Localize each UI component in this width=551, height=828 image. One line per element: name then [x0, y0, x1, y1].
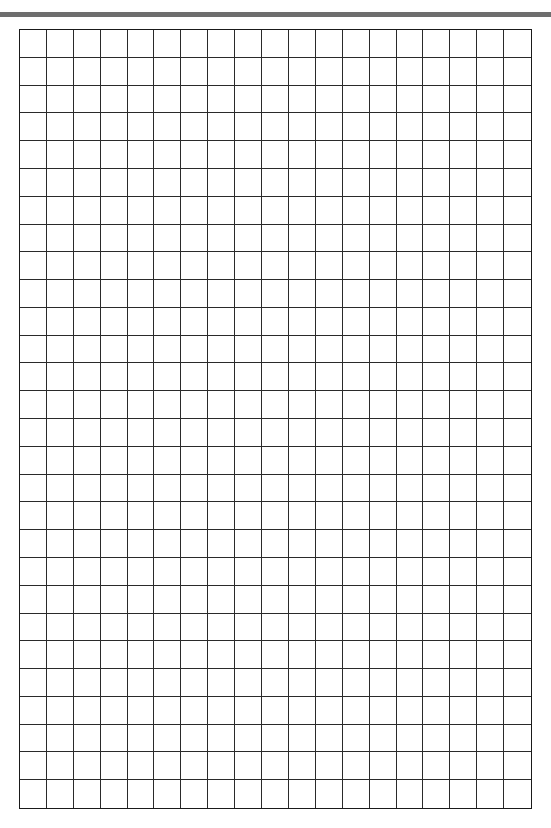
grid-cell	[504, 30, 531, 58]
grid-cell	[423, 725, 450, 753]
grid-cell	[235, 586, 262, 614]
grid-cell	[397, 697, 424, 725]
grid-cell	[235, 419, 262, 447]
grid-cell	[477, 280, 504, 308]
grid-cell	[423, 113, 450, 141]
grid-cell	[370, 363, 397, 391]
grid-cell	[128, 586, 155, 614]
grid-cell	[370, 502, 397, 530]
grid-cell	[262, 447, 289, 475]
grid-cell	[181, 447, 208, 475]
grid-cell	[289, 752, 316, 780]
grid-cell	[343, 558, 370, 586]
grid-cell	[450, 225, 477, 253]
grid-cell	[74, 725, 101, 753]
grid-cell	[397, 586, 424, 614]
grid-cell	[181, 86, 208, 114]
grid-cell	[316, 391, 343, 419]
grid-cell	[154, 86, 181, 114]
grid-cell	[477, 58, 504, 86]
grid-cell	[235, 780, 262, 808]
grid-cell	[316, 419, 343, 447]
grid-cell	[450, 697, 477, 725]
grid-cell	[74, 669, 101, 697]
grid-cell	[101, 86, 128, 114]
grid-cell	[289, 447, 316, 475]
grid-cell	[101, 169, 128, 197]
grid-cell	[128, 391, 155, 419]
grid-cell	[423, 447, 450, 475]
grid-cell	[20, 530, 47, 558]
grid-cell	[289, 141, 316, 169]
grid-cell	[289, 780, 316, 808]
grid-cell	[262, 530, 289, 558]
grid-cell	[423, 586, 450, 614]
grid-cell	[504, 225, 531, 253]
grid-cell	[477, 502, 504, 530]
grid-cell	[181, 614, 208, 642]
grid-cell	[262, 363, 289, 391]
grid-cell	[262, 280, 289, 308]
grid-cell	[370, 752, 397, 780]
grid-cell	[101, 141, 128, 169]
grid-cell	[289, 558, 316, 586]
grid-cell	[208, 614, 235, 642]
grid-cell	[289, 669, 316, 697]
grid-cell	[504, 780, 531, 808]
grid-cell	[477, 141, 504, 169]
grid-cell	[397, 391, 424, 419]
grid-cell	[343, 280, 370, 308]
grid-cell	[208, 641, 235, 669]
grid-cell	[20, 280, 47, 308]
grid-cell	[397, 419, 424, 447]
grid-cell	[74, 113, 101, 141]
grid-cell	[370, 419, 397, 447]
grid-cell	[20, 752, 47, 780]
grid-cell	[316, 614, 343, 642]
grid-cell	[208, 86, 235, 114]
grid-cell	[235, 391, 262, 419]
grid-cell	[343, 113, 370, 141]
grid-cell	[154, 58, 181, 86]
grid-cell	[370, 780, 397, 808]
grid-cell	[181, 641, 208, 669]
grid-cell	[370, 447, 397, 475]
grid-cell	[397, 30, 424, 58]
grid-cell	[235, 558, 262, 586]
grid-cell	[235, 502, 262, 530]
grid-cell	[316, 697, 343, 725]
grid-cell	[20, 614, 47, 642]
grid-cell	[181, 558, 208, 586]
grid-cell	[343, 780, 370, 808]
grid-cell	[450, 780, 477, 808]
grid-cell	[450, 363, 477, 391]
grid-cell	[343, 502, 370, 530]
grid-cell	[262, 752, 289, 780]
grid-cell	[47, 669, 74, 697]
grid-cell	[101, 752, 128, 780]
grid-cell	[477, 363, 504, 391]
grid-cell	[208, 391, 235, 419]
grid-cell	[208, 280, 235, 308]
grid-cell	[504, 336, 531, 364]
grid-cell	[289, 58, 316, 86]
grid-cell	[101, 502, 128, 530]
grid-cell	[128, 447, 155, 475]
grid-cell	[262, 86, 289, 114]
grid-cell	[397, 725, 424, 753]
grid-cell	[235, 530, 262, 558]
grid-cell	[181, 280, 208, 308]
grid-cell	[181, 225, 208, 253]
grid-cell	[450, 614, 477, 642]
grid-cell	[20, 86, 47, 114]
grid-cell	[235, 86, 262, 114]
grid-cell	[370, 86, 397, 114]
grid-cell	[289, 113, 316, 141]
grid-cell	[316, 780, 343, 808]
grid-cell	[450, 586, 477, 614]
grid-cell	[423, 475, 450, 503]
grid-cell	[397, 141, 424, 169]
grid-cell	[504, 530, 531, 558]
grid-cell	[181, 391, 208, 419]
grid-cell	[101, 558, 128, 586]
